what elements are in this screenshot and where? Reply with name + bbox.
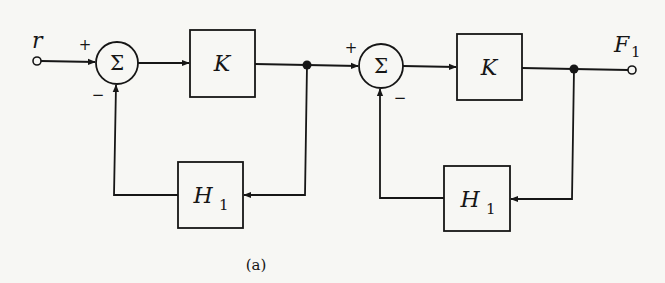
h1-2-subscript: 1 <box>486 200 496 218</box>
feedback-block-h1-1: H 1 <box>178 162 243 228</box>
input-label: r <box>32 28 44 53</box>
summing-junction-1: Σ + − <box>79 36 138 104</box>
input-terminal: r <box>32 28 44 65</box>
h1-1-subscript: 1 <box>219 196 229 214</box>
figure-caption: (a) <box>246 256 267 274</box>
summing-junction-2: Σ + − <box>345 39 407 107</box>
line-k1-to-node1 <box>255 64 307 65</box>
sigma-symbol: Σ <box>374 54 388 78</box>
output-terminal: F 1 <box>613 32 641 74</box>
forward-block-k1: K <box>190 30 255 97</box>
arrow-node1-to-sum2 <box>307 65 358 66</box>
plus-sign: + <box>79 36 92 54</box>
line-node2-to-output <box>574 69 628 70</box>
k1-label: K <box>213 51 232 76</box>
forward-block-k2: K <box>457 34 522 100</box>
feedback-line-2-out <box>380 89 444 198</box>
plus-sign: + <box>345 39 358 57</box>
line-k2-to-node2 <box>522 68 574 69</box>
minus-sign: − <box>394 89 407 107</box>
feedback-block-h1-2: H 1 <box>444 166 510 231</box>
output-label: F <box>613 32 630 57</box>
block-diagram: r Σ + − K H 1 Σ + − K <box>0 0 665 283</box>
sigma-symbol: Σ <box>110 51 124 75</box>
feedback-line-1-out <box>114 85 178 195</box>
k2-label: K <box>480 55 499 80</box>
input-arrow <box>41 61 95 62</box>
h1-1-label: H <box>192 183 213 208</box>
arrow-sum2-to-k2 <box>403 66 456 67</box>
h1-2-label: H <box>459 187 480 212</box>
minus-sign: − <box>92 86 105 104</box>
output-subscript: 1 <box>631 43 641 61</box>
